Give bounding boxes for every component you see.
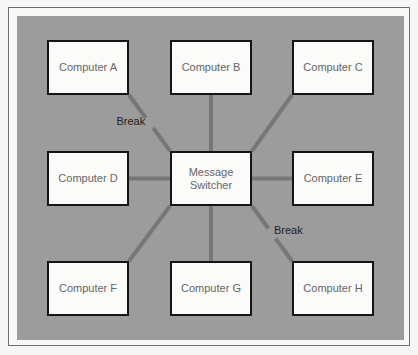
computer-node-e: Computer E xyxy=(292,151,374,206)
node-label: Computer D xyxy=(58,172,117,185)
node-label: Computer A xyxy=(59,61,117,74)
computer-node-d: Computer D xyxy=(47,151,129,206)
computer-node-b: Computer B xyxy=(170,40,252,95)
break-label-A: Break xyxy=(117,115,146,127)
computer-node-c: Computer C xyxy=(292,40,374,95)
computer-node-a: Computer A xyxy=(47,40,129,95)
computer-node-g: Computer G xyxy=(170,261,252,316)
node-label: Computer H xyxy=(303,282,362,295)
switcher-label: Message Switcher xyxy=(189,166,234,192)
node-label: Computer G xyxy=(181,282,241,295)
link-H-segment-2 xyxy=(252,206,268,229)
node-label: Computer B xyxy=(182,61,241,74)
node-label: Computer F xyxy=(59,282,117,295)
node-label: Computer E xyxy=(304,172,363,185)
node-label: Computer C xyxy=(303,61,362,74)
message-switcher-node: Message Switcher xyxy=(170,151,252,206)
link-H-segment-1 xyxy=(276,238,292,261)
link-A-segment-2 xyxy=(153,128,170,151)
computer-node-h: Computer H xyxy=(292,261,374,316)
link-F xyxy=(129,206,170,261)
break-label-H: Break xyxy=(274,224,303,236)
link-C xyxy=(252,95,292,151)
computer-node-f: Computer F xyxy=(47,261,129,316)
